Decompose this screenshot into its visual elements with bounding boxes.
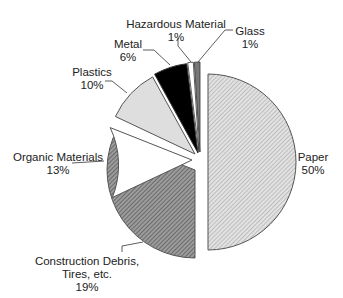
label-construction-pct: 19%: [75, 281, 98, 293]
leader-metal: [143, 50, 170, 65]
leader-glass: [198, 30, 233, 62]
label-organic-name: Organic Materials: [13, 151, 103, 163]
label-paper-pct: 50%: [301, 164, 324, 176]
pie-chart: Hazardous Material 1% Glass 1% Metal 6% …: [0, 0, 343, 298]
label-organic-pct: 13%: [46, 164, 69, 176]
label-plastics-pct: 10%: [80, 79, 103, 91]
label-metal-name: Metal: [114, 38, 142, 50]
label-hazardous-pct: 1%: [168, 31, 185, 43]
label-plastics-name: Plastics: [72, 66, 112, 78]
label-construction-line2: Tires, etc.: [62, 268, 112, 280]
label-construction-line1: Construction Debris,: [35, 255, 139, 267]
label-hazardous-name: Hazardous Material: [126, 18, 226, 30]
label-paper-name: Paper: [298, 151, 329, 163]
label-glass-name: Glass: [235, 25, 265, 37]
leader-plastics: [105, 81, 127, 93]
leader-construction: [122, 242, 143, 252]
label-glass-pct: 1%: [242, 38, 259, 50]
label-metal-pct: 6%: [120, 51, 137, 63]
slice-paper: [208, 74, 296, 250]
